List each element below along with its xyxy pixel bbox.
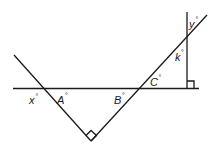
left-diagonal-line (14, 55, 91, 141)
svg-text:°: ° (36, 93, 39, 100)
svg-text:°: ° (181, 49, 184, 56)
label-A: A ° (56, 92, 68, 106)
svg-text:°: ° (65, 92, 68, 99)
right-angle-mark-vertical (187, 81, 194, 89)
label-B: B ° (114, 92, 125, 106)
svg-text:°: ° (122, 92, 125, 99)
svg-text:°: ° (159, 74, 162, 81)
svg-text:C: C (150, 76, 158, 88)
label-k: k ° (175, 49, 184, 63)
right-diagonal-line (91, 15, 207, 141)
label-y: y ° (188, 16, 199, 30)
label-C: C ° (150, 74, 162, 88)
svg-text:°: ° (196, 16, 199, 23)
svg-text:B: B (114, 94, 121, 106)
geometry-diagram: x ° A ° B ° C ° k ° y ° (0, 0, 215, 153)
svg-text:A: A (56, 94, 64, 106)
right-angle-mark-bottom (86, 131, 97, 142)
svg-text:x: x (28, 94, 35, 106)
label-x: x ° (28, 93, 39, 106)
